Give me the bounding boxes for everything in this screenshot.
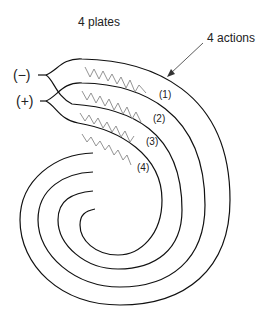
pointer-arrow [167,43,203,77]
plate-3 [46,75,182,269]
plate-4 [46,101,162,255]
actions-label: 4 actions [207,31,255,45]
spiral-battery-diagram: 4 plates 4 actions (−) (+) (1) (2) (3) (… [0,0,270,336]
negative-terminal: (−) [13,67,31,83]
title-label: 4 plates [78,15,120,29]
action-label-3: (3) [146,136,158,147]
action-label-1: (1) [159,89,171,100]
action-label-2: (2) [153,113,165,124]
plate-1 [20,59,230,305]
action-label-4: (4) [137,162,149,173]
zigzags [80,67,146,165]
positive-terminal: (+) [16,93,34,109]
plates [20,59,230,305]
